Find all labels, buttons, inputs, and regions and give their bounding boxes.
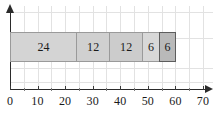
x-axis-tick-label: 60 <box>163 95 187 108</box>
stacked-bar: 24121266 <box>10 32 176 62</box>
gridline-horizontal <box>10 82 213 83</box>
bar-segment: 24 <box>10 32 77 62</box>
x-axis-tick-label: 50 <box>136 95 160 108</box>
x-axis-tick-major <box>65 86 66 90</box>
x-axis-tick-minor <box>79 88 80 91</box>
gridline-horizontal <box>10 68 213 69</box>
x-axis-tick-minor <box>134 88 135 91</box>
x-axis-line <box>10 89 207 90</box>
x-axis-tick-minor <box>162 88 163 91</box>
x-axis-tick-minor <box>189 88 190 91</box>
gridline-vertical <box>189 6 190 90</box>
bar-segment: 12 <box>76 32 110 62</box>
x-axis-tick-label: 0 <box>0 95 22 108</box>
x-axis-tick-label: 70 <box>191 95 215 108</box>
stacked-bar-chart: 010203040506070 24121266 <box>0 0 217 114</box>
bar-segment: 6 <box>159 32 177 62</box>
x-axis-tick-minor <box>51 88 52 91</box>
x-axis-tick-minor <box>24 88 25 91</box>
x-axis-arrowhead <box>205 85 213 93</box>
x-axis-tick-major <box>203 86 204 90</box>
bar-segment: 6 <box>142 32 160 62</box>
x-axis-tick-major <box>38 86 39 90</box>
gridline-vertical <box>203 6 204 90</box>
x-axis-tick-major <box>93 86 94 90</box>
x-axis-tick-label: 40 <box>108 95 132 108</box>
x-axis-tick-major <box>120 86 121 90</box>
gridline-horizontal <box>10 12 213 13</box>
x-axis-tick-label: 10 <box>26 95 50 108</box>
x-axis-tick-label: 30 <box>81 95 105 108</box>
x-axis-tick-major <box>175 86 176 90</box>
y-axis-arrowhead <box>6 4 14 13</box>
x-axis-tick-major <box>10 86 11 90</box>
x-axis-tick-major <box>148 86 149 90</box>
x-axis-tick-minor <box>106 88 107 91</box>
x-axis-tick-label: 20 <box>53 95 77 108</box>
bar-segment: 12 <box>109 32 143 62</box>
